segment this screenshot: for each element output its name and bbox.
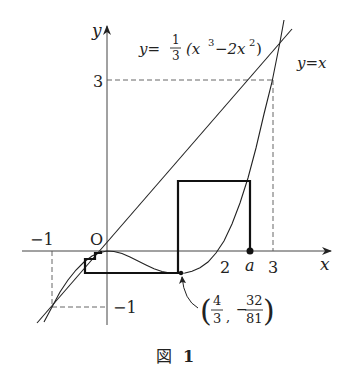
- cubic-frac-den: 3: [172, 49, 180, 63]
- min-y-num: 32: [246, 293, 263, 308]
- tick-x-minus1: −1: [30, 230, 54, 249]
- cubic-exp1: 3: [208, 37, 214, 48]
- cubic-close: ): [256, 40, 262, 58]
- tick-x-2: 2: [220, 258, 230, 277]
- tick-x-3: 3: [268, 258, 278, 277]
- paren-open: (: [200, 293, 212, 328]
- min-x-den: 3: [213, 311, 221, 326]
- line-equation-label: y=x: [296, 54, 327, 72]
- cubic-lhs: y=: [138, 40, 160, 58]
- caption-number: 1: [183, 347, 194, 366]
- cubic-mid: −2x: [215, 40, 246, 58]
- cubic-curve: [44, 20, 284, 322]
- origin-label: O: [90, 230, 103, 249]
- cubic-equation-label: y= 1 3 (x 3 −2x 2 ): [138, 33, 262, 63]
- figure-caption: 図 1: [156, 347, 194, 366]
- cubic-frac-num: 1: [172, 33, 180, 47]
- x-axis-label: x: [320, 254, 330, 274]
- comma: ,: [226, 309, 230, 324]
- y-axis-label: y: [91, 20, 102, 40]
- figure-canvas: y x O −1 2 a 3 3 −1 y= 1 3 (x 3 −2x 2 ) …: [0, 0, 359, 382]
- paren-close: ): [263, 293, 275, 328]
- min-y-den: 81: [246, 311, 263, 326]
- tick-y-3: 3: [93, 72, 103, 91]
- min-point: [179, 271, 183, 275]
- caption-label: 図: [156, 347, 172, 366]
- min-point-label: ( 4 3 , − 32 81 ): [200, 293, 275, 328]
- cubic-exp2: 2: [249, 37, 255, 48]
- min-x-num: 4: [213, 293, 221, 308]
- point-a: [247, 248, 254, 255]
- cubic-expr: (x: [186, 40, 201, 58]
- line-y-equals-x: [37, 29, 292, 323]
- tick-x-a: a: [245, 256, 255, 275]
- tick-y-minus1: −1: [113, 298, 137, 317]
